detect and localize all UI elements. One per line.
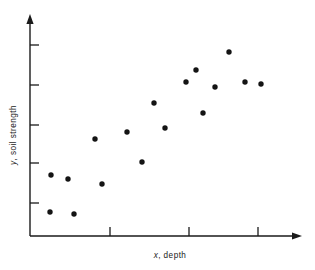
y-axis-ticks	[30, 45, 39, 203]
y-axis-arrowhead-icon	[26, 14, 33, 24]
data-point	[242, 79, 247, 84]
x-axis-arrowhead-icon	[292, 232, 302, 239]
data-point	[151, 100, 156, 105]
data-point	[193, 67, 198, 72]
data-point	[139, 159, 144, 164]
data-point	[212, 84, 217, 89]
scatter-plot-figure: x, depth y, soil strength	[0, 0, 315, 270]
x-axis-label-text: , depth	[158, 251, 186, 260]
data-point	[200, 110, 205, 115]
data-point	[47, 209, 52, 214]
x-axis-label: x, depth	[153, 251, 187, 260]
data-point	[65, 176, 70, 181]
data-point	[92, 136, 97, 141]
plot-svg: x, depth y, soil strength	[0, 0, 315, 270]
data-point	[183, 79, 188, 84]
data-point	[124, 129, 129, 134]
y-axis-label-text: , soil strength	[9, 105, 18, 160]
y-axis-label: y, soil strength	[9, 105, 18, 166]
data-points-layer	[47, 49, 263, 216]
data-point	[99, 181, 104, 186]
data-point	[48, 172, 53, 177]
data-point	[162, 125, 167, 130]
data-point	[226, 49, 231, 54]
x-axis-ticks	[110, 227, 258, 236]
data-point	[71, 211, 76, 216]
data-point	[258, 81, 263, 86]
